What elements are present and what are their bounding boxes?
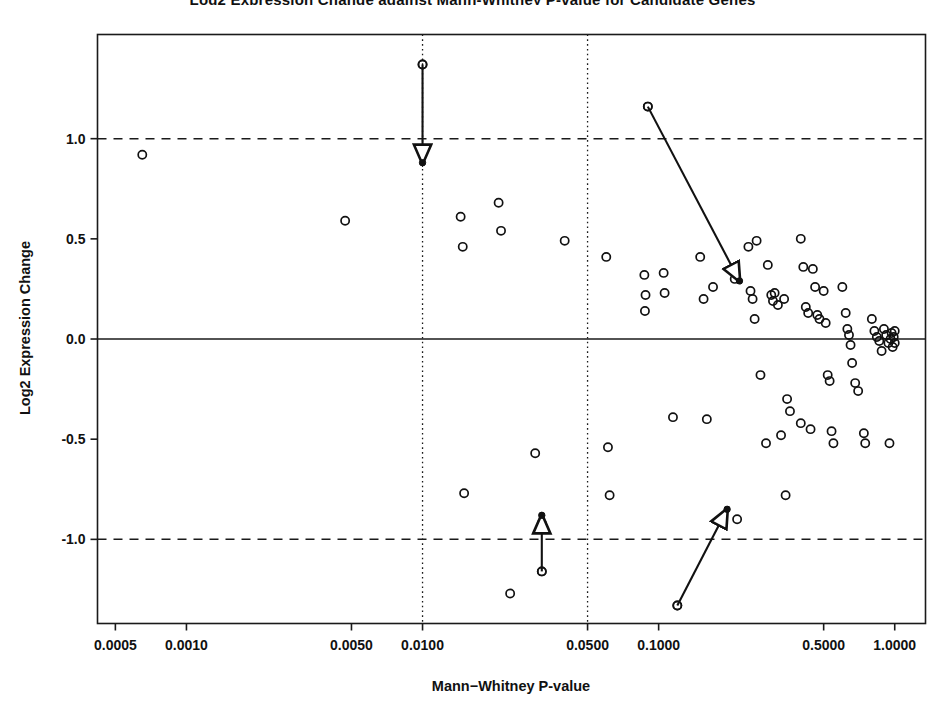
data-point[interactable]	[669, 413, 677, 421]
data-point[interactable]	[797, 419, 805, 427]
y-tick-label-1: 0.5	[32, 231, 86, 247]
x-tick-label-4: 0.0500	[566, 637, 609, 653]
data-point[interactable]	[786, 407, 794, 415]
data-point[interactable]	[602, 253, 610, 261]
shift-arrow-down-target-point	[419, 160, 425, 166]
data-point[interactable]	[460, 489, 468, 497]
x-tick-label-7: 1.0000	[873, 637, 916, 653]
x-tick-label-5: 0.1000	[637, 637, 680, 653]
x-axis-title: Mann−Whitney P-value	[97, 678, 925, 694]
data-point[interactable]	[606, 491, 614, 499]
data-point[interactable]	[780, 295, 788, 303]
data-point[interactable]	[531, 449, 539, 457]
data-point[interactable]	[782, 491, 790, 499]
data-point[interactable]	[806, 425, 814, 433]
annotation-arrows-layer	[418, 60, 742, 609]
shift-arrow-upright[interactable]	[673, 506, 730, 609]
data-point[interactable]	[459, 243, 467, 251]
data-point[interactable]	[848, 359, 856, 367]
data-point[interactable]	[709, 283, 717, 291]
data-point[interactable]	[641, 291, 649, 299]
shift-arrow-upright-target-point	[724, 506, 730, 512]
data-point[interactable]	[640, 271, 648, 279]
data-point[interactable]	[860, 429, 868, 437]
y-tick-label-2: 0.0	[32, 331, 86, 347]
data-point[interactable]	[699, 295, 707, 303]
data-point[interactable]	[851, 379, 859, 387]
plot-canvas	[0, 0, 945, 718]
x-tick-label-6: 0.5000	[802, 637, 845, 653]
shift-arrow-up-target-point	[539, 512, 545, 518]
data-point[interactable]	[497, 227, 505, 235]
data-point[interactable]	[660, 269, 668, 277]
data-point[interactable]	[744, 243, 752, 251]
data-point[interactable]	[341, 217, 349, 225]
data-point[interactable]	[604, 443, 612, 451]
data-point[interactable]	[764, 261, 772, 269]
data-point[interactable]	[885, 439, 893, 447]
chart-title: Log2 Expression Change against Mann-Whit…	[0, 0, 945, 5]
data-points-layer	[138, 60, 899, 609]
data-point[interactable]	[846, 341, 854, 349]
data-point[interactable]	[854, 387, 862, 395]
axes-layer	[91, 35, 926, 631]
data-point[interactable]	[138, 151, 146, 159]
y-tick-label-4: -1.0	[32, 531, 86, 547]
plot-frame	[98, 35, 926, 624]
shift-arrow-upright-shaft	[677, 509, 727, 605]
data-point[interactable]	[829, 439, 837, 447]
data-point[interactable]	[753, 237, 761, 245]
data-point[interactable]	[762, 439, 770, 447]
data-point[interactable]	[703, 415, 711, 423]
data-point[interactable]	[748, 295, 756, 303]
shift-arrow-downright-shaft	[648, 107, 740, 281]
y-tick-label-0: 1.0	[32, 131, 86, 147]
x-tick-label-3: 0.0100	[401, 637, 444, 653]
shift-arrow-down[interactable]	[418, 60, 426, 165]
x-tick-label-2: 0.0050	[330, 637, 373, 653]
data-point[interactable]	[777, 431, 785, 439]
data-point[interactable]	[868, 315, 876, 323]
data-point[interactable]	[783, 395, 791, 403]
data-point[interactable]	[746, 287, 754, 295]
scatter-plot-figure: Log2 Expression Change against Mann-Whit…	[0, 0, 945, 718]
data-point[interactable]	[696, 253, 704, 261]
shift-arrow-downright[interactable]	[644, 103, 743, 285]
x-tick-label-0: 0.0005	[94, 637, 137, 653]
data-point[interactable]	[842, 309, 850, 317]
data-point[interactable]	[661, 289, 669, 297]
shift-arrow-downright-target-point	[736, 278, 742, 284]
data-point[interactable]	[561, 237, 569, 245]
data-point[interactable]	[827, 427, 835, 435]
data-point[interactable]	[756, 371, 764, 379]
data-point[interactable]	[457, 213, 465, 221]
data-point[interactable]	[799, 263, 807, 271]
data-point[interactable]	[733, 515, 741, 523]
data-point[interactable]	[495, 199, 503, 207]
data-point[interactable]	[797, 235, 805, 243]
data-point[interactable]	[809, 265, 817, 273]
data-point[interactable]	[822, 319, 830, 327]
x-tick-label-1: 0.0010	[165, 637, 208, 653]
data-point[interactable]	[641, 307, 649, 315]
data-point[interactable]	[838, 283, 846, 291]
data-point[interactable]	[751, 315, 759, 323]
data-point[interactable]	[820, 287, 828, 295]
y-tick-label-3: -0.5	[32, 431, 86, 447]
data-point[interactable]	[878, 347, 886, 355]
data-point[interactable]	[506, 589, 514, 597]
reference-lines-layer	[98, 35, 926, 624]
data-point[interactable]	[811, 283, 819, 291]
data-point[interactable]	[861, 439, 869, 447]
